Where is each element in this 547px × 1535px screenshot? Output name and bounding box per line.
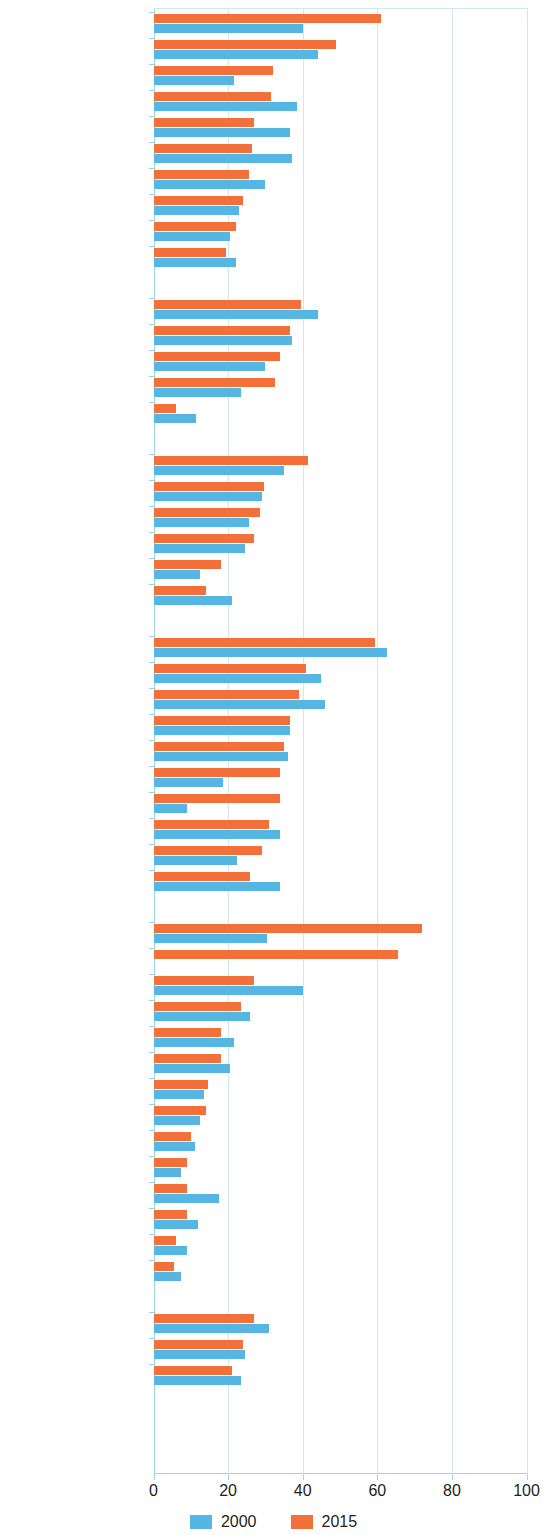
- bar-chart: TurkmenistanAzerbaijanUzbekistanKazakhst…: [0, 0, 547, 1535]
- legend-item-2000[interactable]: 2000: [190, 1513, 257, 1531]
- legend-label: 2015: [322, 1513, 358, 1531]
- x-axis-tick-80: [452, 1474, 453, 1480]
- legend-swatch-icon: [291, 1515, 313, 1529]
- x-axis-label: 60: [368, 1482, 386, 1500]
- x-axis-tick-40: [303, 1474, 304, 1480]
- x-axis-tick-20: [228, 1474, 229, 1480]
- legend-label: 2000: [221, 1513, 257, 1531]
- x-axis-tick-0: [154, 1474, 155, 1480]
- x-axis-label: 40: [294, 1482, 312, 1500]
- x-axis-tick-100: [527, 1474, 528, 1480]
- legend-swatch-icon: [190, 1515, 212, 1529]
- legend-item-2015[interactable]: 2015: [291, 1513, 358, 1531]
- x-axis-label: 80: [443, 1482, 461, 1500]
- x-axis-label: 100: [513, 1482, 540, 1500]
- x-axis-tick-60: [377, 1474, 378, 1480]
- x-axis-label: 20: [219, 1482, 237, 1500]
- chart-legend: 20002015: [0, 1513, 547, 1531]
- x-axis-label: 0: [149, 1482, 158, 1500]
- category-labels: TurkmenistanAzerbaijanUzbekistanKazakhst…: [0, 0, 547, 1535]
